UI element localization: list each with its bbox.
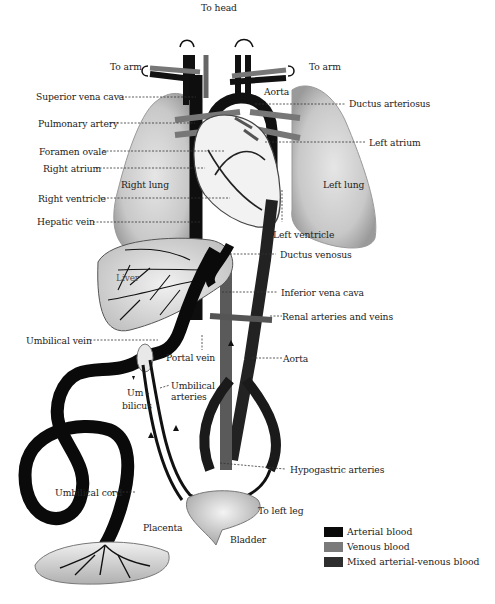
label-aorta-bottom: Aorta [283, 353, 308, 364]
label-placenta: Placenta [143, 522, 182, 533]
label-umbilical-cord: Umbilical cord [55, 487, 122, 498]
label-umbilicus-line2: bilicus [122, 400, 152, 411]
venous-swatch [324, 542, 343, 552]
label-hepatic-vein: Hepatic vein [37, 216, 95, 227]
legend: Arterial blood Venous blood Mixed arteri… [324, 524, 480, 569]
label-left-ventricle: Left ventricle [273, 229, 334, 240]
mixed-swatch [324, 557, 343, 567]
label-umbilical-arteries-line2: arteries [171, 391, 207, 402]
label-umbilicus-line1: Um - [127, 387, 149, 398]
label-to-head: To head [201, 2, 237, 13]
label-pulmonary-artery: Pulmonary artery [38, 118, 118, 129]
label-to-left-leg: To left leg [258, 505, 303, 516]
label-left-lung: Left lung [323, 179, 364, 190]
label-aorta-top: Aorta [264, 86, 289, 97]
renal-vessels [210, 316, 272, 320]
label-hypogastric-arteries: Hypogastric arteries [290, 464, 384, 475]
label-right-atrium: Right atrium [43, 163, 101, 174]
label-umbilical-vein: Umbilical vein [26, 335, 92, 346]
legend-item-arterial: Arterial blood [324, 524, 480, 539]
label-inferior-vena-cava: Inferior vena cava [281, 287, 364, 298]
label-umbilical-arteries-line1: Umbilical [171, 380, 215, 391]
label-ductus-arteriosus: Ductus arteriosus [349, 98, 430, 109]
legend-label: Mixed arterial-venous blood [347, 556, 480, 567]
label-liver: Liver [116, 273, 139, 284]
label-right-ventricle: Right ventricle [38, 193, 106, 204]
legend-item-venous: Venous blood [324, 539, 480, 554]
label-foramen-ovale: Foramen ovale [39, 146, 107, 157]
label-right-lung: Right lung [121, 179, 169, 190]
legend-label: Arterial blood [347, 526, 412, 537]
left-lung-shape [292, 86, 376, 248]
legend-label: Venous blood [347, 541, 410, 552]
arterial-swatch [324, 527, 343, 537]
label-superior-vena-cava: Superior vena cava [36, 91, 124, 102]
label-left-atrium: Left atrium [369, 137, 421, 148]
label-to-arm-right: To arm [309, 61, 341, 72]
label-portal-vein: Portal vein [166, 352, 215, 363]
label-to-arm-left: To arm [110, 61, 142, 72]
legend-item-mixed: Mixed arterial-venous blood [324, 554, 480, 569]
label-ductus-venosus: Ductus venosus [280, 249, 352, 260]
label-bladder: Bladder [230, 534, 266, 545]
label-renal-arteries-veins: Renal arteries and veins [282, 311, 393, 322]
